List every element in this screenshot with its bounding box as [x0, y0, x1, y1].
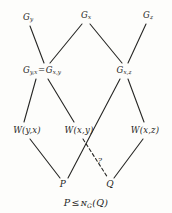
node-g-x-base: G [81, 10, 88, 20]
edge-gz-gxz [128, 24, 146, 63]
node-g-x: Gx [81, 11, 91, 21]
edge-gyx-wyx [24, 79, 36, 122]
edge-wyx-p [30, 139, 60, 178]
node-g-xz-subscript: x,z [124, 69, 132, 75]
node-g-z: Gz [143, 11, 153, 21]
equals-sign: = [37, 65, 45, 75]
subgroup-lattice-diagram: Gy Gx Gz Gy,x=Gx,y Gx,z W(y,x) W(x,y) W(… [0, 0, 172, 213]
caption-left-term: P [64, 197, 71, 208]
edge-wxy-q-dashed [83, 139, 108, 178]
node-w-yx: W(y,x) [13, 126, 41, 135]
edge-gxz-wxz [128, 79, 144, 122]
diagram-edges [0, 0, 172, 213]
caption-argument: (Q) [92, 197, 108, 208]
node-g-y-base: G [23, 12, 30, 22]
node-g-x-subscript: x [88, 14, 91, 20]
node-g-yx-equals-g-xy: Gy,x=Gx,y [23, 66, 61, 76]
caption-relation-symbol: ≤ [70, 197, 80, 208]
question-mark-annotation: ? [98, 156, 102, 165]
node-p: P [60, 180, 66, 189]
node-g-z-base: G [143, 10, 150, 20]
node-q: Q [106, 180, 114, 189]
node-w-xz-args: (x,z) [140, 125, 160, 135]
edge-gy-gyx [30, 26, 44, 63]
node-g-xz: Gx,z [117, 66, 132, 76]
caption-formula: P≤ɴG(Q) [64, 197, 109, 209]
node-w-xz-base: W [131, 125, 140, 135]
node-w-yx-args: (y,x) [22, 125, 41, 135]
edge-wxz-q [114, 139, 143, 178]
node-w-xy: W(x,y) [65, 126, 94, 135]
edge-gx-gyx [50, 24, 82, 63]
edge-gyx-wxy [48, 79, 74, 122]
node-w-xz: W(x,z) [131, 126, 160, 135]
node-g-y-subscript: y [30, 16, 33, 22]
node-g-xz-base: G [117, 65, 124, 75]
node-w-xy-base: W [65, 125, 74, 135]
node-g-y: Gy [23, 13, 33, 23]
edge-gx-gxz [90, 24, 122, 63]
node-g-z-subscript: z [150, 14, 153, 20]
node-g-xy-base: G [46, 65, 53, 75]
node-g-xy-subscript: x,y [53, 69, 61, 75]
node-w-yx-base: W [13, 125, 22, 135]
node-w-xy-args: (x,y) [74, 125, 94, 135]
node-g-yx-base: G [23, 65, 30, 75]
